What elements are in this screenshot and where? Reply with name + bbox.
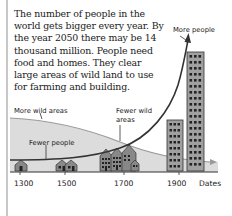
tick-1300: 1300 — [14, 179, 33, 188]
more-wild-areas-label: More wild areas — [14, 107, 68, 115]
fewer-wild-areas-label-2: areas — [116, 116, 135, 124]
building-icon — [167, 120, 183, 171]
tick-1700: 1700 — [114, 179, 133, 188]
population-arrow-icon — [185, 33, 192, 43]
tick-1500: 1500 — [57, 179, 76, 188]
more-people-label: More people — [173, 26, 215, 34]
tick-1900: 1900 — [167, 179, 186, 188]
fewer-people-label: Fewer people — [29, 139, 74, 147]
population-diagram: More wild areas Fewer wild areas Fewer p… — [0, 0, 232, 216]
tall-building-icon — [187, 52, 204, 171]
fewer-wild-areas-label: Fewer wild — [116, 107, 152, 115]
axis-title-dates: Dates — [199, 179, 221, 188]
